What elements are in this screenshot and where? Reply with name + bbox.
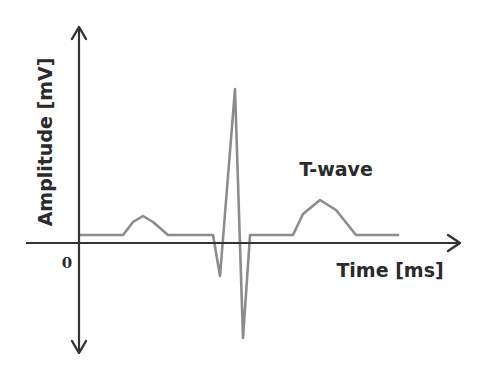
ecg-signal-trace bbox=[80, 89, 398, 338]
ecg-diagram: Amplitude [mV] Time [ms] 0 T-wave bbox=[0, 0, 477, 369]
origin-label: 0 bbox=[62, 254, 72, 272]
t-wave-annotation: T-wave bbox=[299, 158, 373, 180]
x-axis-label: Time [ms] bbox=[336, 259, 443, 281]
y-axis-label: Amplitude [mV] bbox=[34, 58, 56, 227]
